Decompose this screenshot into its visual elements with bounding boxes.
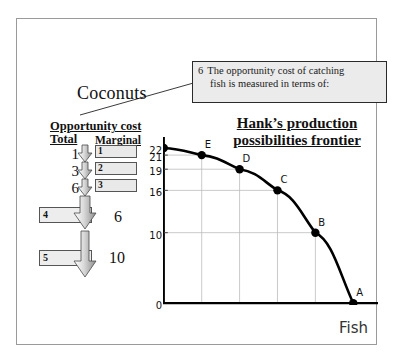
x-axis-title-fish: Fish (339, 319, 368, 337)
drop-lines (202, 155, 354, 303)
svg-text:16: 16 (149, 187, 162, 198)
svg-text:E: E (205, 139, 211, 150)
marginal-cost-value: 10 (109, 249, 125, 267)
marginal-cost-value: 6 (114, 208, 122, 226)
marginal-value-box: 3 (95, 179, 137, 192)
y-axis-title-coconuts: Coconuts (77, 83, 147, 104)
svg-text:19: 19 (149, 166, 162, 177)
ppf-chart: FEDCBA 12345 (163, 137, 378, 305)
chart-title-line1: Hank’s production (213, 115, 381, 132)
marginal-value-box: 2 (95, 162, 137, 175)
callout-index: 6 (198, 65, 203, 76)
svg-text:10: 10 (149, 230, 162, 241)
callout-line1: The opportunity cost of catching (207, 65, 344, 76)
data-point-labels: FEDCBA (163, 137, 363, 298)
svg-text:21: 21 (149, 152, 162, 163)
svg-text:D: D (243, 153, 251, 164)
y-tick-labels: 22211916100 (143, 131, 165, 311)
slide-frame: 6The opportunity cost of catching fish i… (16, 18, 377, 345)
callout-line2: fish is measured in terms of: (210, 78, 382, 91)
svg-text:B: B (318, 217, 325, 228)
data-point-markers (163, 144, 357, 305)
marginal-value-box: 1 (95, 145, 137, 158)
svg-text:A: A (356, 287, 363, 298)
svg-text:C: C (280, 174, 287, 185)
svg-text:0: 0 (156, 300, 162, 311)
question-callout-box: 6The opportunity cost of catching fish i… (192, 61, 387, 103)
callout-text: 6The opportunity cost of catching fish i… (198, 65, 382, 90)
down-arrow-group (73, 143, 99, 278)
